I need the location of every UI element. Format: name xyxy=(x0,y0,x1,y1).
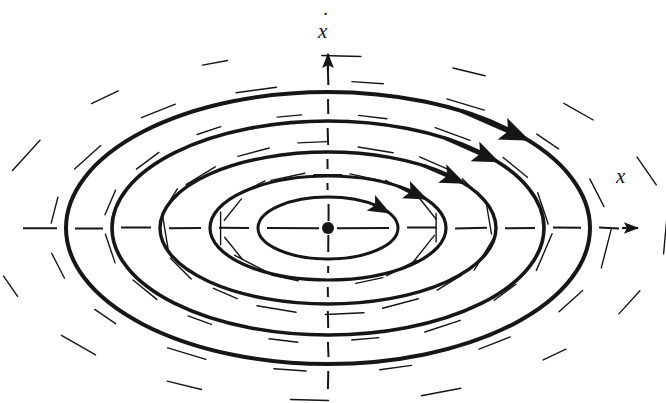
flow-direction-arrow xyxy=(374,205,388,213)
direction-field-segment xyxy=(238,148,269,156)
direction-field-segment xyxy=(358,147,393,153)
axes-group xyxy=(23,54,638,389)
direction-field-segment xyxy=(186,167,215,185)
direction-field-segment xyxy=(435,128,470,141)
direction-field-segment xyxy=(203,61,228,66)
direction-field-segment xyxy=(13,140,41,170)
flow-direction-arrow xyxy=(445,138,496,161)
direction-field-segment xyxy=(322,56,361,57)
direction-field-segment xyxy=(352,338,379,340)
direction-field-segment xyxy=(168,348,206,360)
direction-field-segment xyxy=(197,127,221,135)
direction-field-segment xyxy=(619,291,640,314)
figure-container: x x ˙ xyxy=(0,0,666,403)
x-axis-segment xyxy=(455,228,487,229)
direction-field-segment xyxy=(564,103,593,120)
direction-field-segment xyxy=(298,142,327,143)
y-axis-segment xyxy=(328,128,329,145)
direction-field-segment xyxy=(277,115,302,117)
y-axis-label-dot-accent: ˙ xyxy=(322,8,329,32)
direction-field-segment xyxy=(352,82,383,84)
direction-field-segment xyxy=(92,91,119,104)
y-axis-segment xyxy=(328,342,329,357)
direction-field-segment xyxy=(421,388,461,395)
direction-field-segment xyxy=(257,306,296,313)
flow-direction-arrow xyxy=(424,166,463,183)
direction-field-segment xyxy=(52,253,65,278)
x-axis-segment xyxy=(599,227,619,228)
direction-field-segment xyxy=(62,335,96,355)
direction-field-segment xyxy=(359,115,387,118)
direction-field-segment xyxy=(269,339,298,342)
direction-field-segment xyxy=(453,68,485,76)
equilibrium-point-marker xyxy=(322,222,334,234)
direction-field-segment xyxy=(601,229,611,267)
direction-field-segment xyxy=(136,152,159,169)
direction-field-segment xyxy=(167,381,201,389)
direction-field-segment xyxy=(51,197,58,223)
phase-portrait-diagram: x x ˙ xyxy=(0,0,666,403)
direction-field-segment xyxy=(637,157,656,185)
direction-field-segment xyxy=(559,291,583,312)
x-axis-label: x xyxy=(615,164,626,188)
direction-field-segment xyxy=(590,179,604,207)
direction-field-segment xyxy=(236,87,276,93)
flow-direction-arrow xyxy=(399,186,425,198)
direction-field-segment xyxy=(4,276,18,296)
direction-field-segment xyxy=(274,369,306,371)
direction-field-segment xyxy=(543,349,566,360)
flow-direction-arrow xyxy=(462,111,526,139)
direction-field-segment xyxy=(291,400,329,401)
direction-field-segment xyxy=(380,365,412,369)
direction-field-segment xyxy=(141,104,175,118)
direction-field-segment xyxy=(325,313,364,315)
direction-field-segment xyxy=(95,309,116,323)
